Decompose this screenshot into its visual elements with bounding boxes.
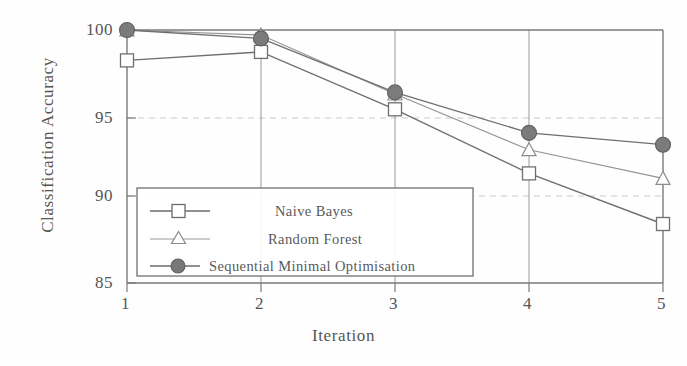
xtick-label-1: 1: [121, 294, 130, 314]
legend-label-smo: Sequential Minimal Optimisation: [209, 258, 416, 275]
marker-open-square: [389, 103, 402, 116]
marker-filled-circle: [388, 85, 403, 100]
marker-filled-circle: [254, 31, 269, 46]
marker-filled-circle: [522, 125, 537, 140]
legend-label-random-forest: Random Forest: [268, 231, 362, 248]
marker-open-triangle: [522, 143, 536, 156]
y-axis-label: Classification Accuracy: [38, 5, 58, 285]
marker-filled-circle: [656, 137, 671, 152]
filled-circle-icon: [171, 259, 185, 273]
open-square-icon: [172, 205, 185, 218]
ytick-label-90: 90: [95, 186, 113, 206]
marker-open-square: [657, 218, 670, 231]
marker-open-square: [255, 45, 268, 58]
x-axis-label: Iteration: [0, 326, 687, 346]
marker-filled-circle: [120, 23, 135, 38]
ytick-label-100: 100: [86, 20, 113, 40]
marker-open-square: [121, 54, 134, 67]
xtick-label-2: 2: [255, 294, 264, 314]
line-chart-plot: [0, 0, 687, 366]
xtick-label-4: 4: [523, 294, 532, 314]
chart-figure: 100 95 90 85 1 2 3 4 5 Classification Ac…: [0, 0, 687, 366]
xtick-label-5: 5: [657, 294, 666, 314]
xtick-label-3: 3: [389, 294, 398, 314]
ytick-label-85: 85: [95, 273, 113, 293]
marker-open-square: [523, 167, 536, 180]
legend-label-naive-bayes: Naive Bayes: [275, 203, 353, 220]
ytick-label-95: 95: [95, 108, 113, 128]
